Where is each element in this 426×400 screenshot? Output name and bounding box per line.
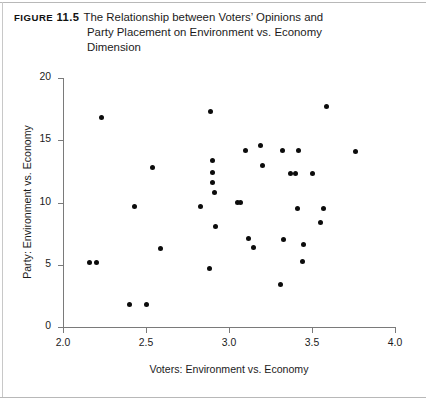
data-point	[127, 302, 132, 307]
x-tick-label: 2.0	[43, 337, 83, 348]
y-tick-mark	[58, 78, 63, 79]
x-tick-mark	[229, 328, 230, 333]
data-point	[210, 158, 215, 163]
data-point	[260, 163, 265, 168]
data-point	[246, 236, 251, 241]
x-tick-label: 3.5	[292, 337, 332, 348]
x-tick-mark	[63, 328, 64, 333]
data-point	[300, 259, 305, 264]
data-point	[87, 260, 92, 265]
data-point	[296, 148, 301, 153]
x-tick-label: 3.0	[209, 337, 249, 348]
x-tick-mark	[312, 328, 313, 333]
x-tick-mark	[395, 328, 396, 333]
data-point	[212, 190, 217, 195]
data-point	[321, 206, 326, 211]
plot-canvas	[63, 78, 395, 327]
y-tick-mark	[58, 265, 63, 266]
data-point	[238, 200, 243, 205]
data-point	[318, 220, 323, 225]
data-point	[213, 224, 218, 229]
data-point	[310, 171, 315, 176]
data-point	[158, 246, 163, 251]
data-point	[210, 180, 215, 185]
data-point	[278, 282, 283, 287]
y-tick-label: 20	[25, 71, 51, 82]
figure-root: Figure 11.5The Relationship between Vote…	[0, 0, 426, 400]
data-point	[281, 237, 286, 242]
x-tick-label: 4.0	[375, 337, 415, 348]
data-point	[207, 266, 212, 271]
x-tick-mark	[146, 328, 147, 333]
y-tick-mark	[58, 203, 63, 204]
data-point	[280, 148, 285, 153]
data-point	[353, 149, 358, 154]
data-point	[324, 104, 329, 109]
data-point	[94, 260, 99, 265]
y-axis-label: Party: Environment vs. Economy	[21, 87, 33, 317]
y-tick-label: 0	[25, 320, 51, 331]
data-point	[144, 302, 149, 307]
data-point	[243, 148, 248, 153]
data-point	[198, 204, 203, 209]
data-point	[251, 245, 256, 250]
data-point	[293, 171, 298, 176]
x-axis-label: Voters: Environment vs. Economy	[63, 363, 395, 375]
data-point	[210, 170, 215, 175]
data-point	[150, 165, 155, 170]
y-tick-mark	[58, 140, 63, 141]
x-tick-label: 2.5	[126, 337, 166, 348]
data-point	[258, 143, 263, 148]
data-point	[295, 206, 300, 211]
data-point	[301, 242, 306, 247]
data-point	[208, 109, 213, 114]
data-point	[132, 204, 137, 209]
data-point	[99, 115, 104, 120]
scatter-plot: 051015202.02.53.03.54.0 Voters: Environm…	[0, 0, 426, 400]
